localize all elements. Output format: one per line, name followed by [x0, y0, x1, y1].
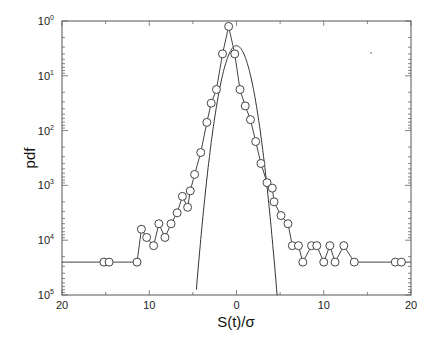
data-point	[161, 233, 169, 241]
plot-frame	[62, 21, 411, 295]
x-tick-labels: 201001020	[56, 299, 417, 311]
data-point	[186, 187, 194, 195]
data-point	[294, 242, 302, 250]
y-tick-label: 102	[38, 124, 54, 137]
data-point	[184, 203, 192, 211]
data-point	[299, 258, 307, 266]
y-tick-label: 103	[38, 178, 54, 191]
data-point	[350, 258, 358, 266]
y-tick-labels: 100101102103104105	[38, 14, 54, 301]
data-point	[143, 233, 151, 241]
x-axis-label: S(t)/σ	[217, 313, 255, 330]
y-tick-label: 100	[38, 14, 54, 27]
data-point	[246, 116, 254, 124]
x-tick-label: 10	[143, 299, 155, 311]
y-tick-label: 105	[38, 288, 54, 301]
data-point	[268, 184, 276, 192]
data-point	[155, 220, 163, 228]
data-point	[284, 220, 292, 228]
data-point	[270, 198, 278, 206]
data-point	[241, 102, 249, 110]
data-point	[173, 209, 181, 217]
data-point	[150, 242, 158, 250]
x-tick-label: 10	[318, 299, 330, 311]
data-point	[203, 118, 211, 126]
data-point	[331, 258, 339, 266]
gaussian-curve	[196, 46, 277, 295]
stray-dot	[370, 52, 372, 54]
y-axis-label: pdf	[21, 147, 38, 169]
data-point	[320, 258, 328, 266]
pdf-chart: 100101102103104105 201001020 S(t)/σ pdf	[0, 0, 433, 344]
data-point	[207, 99, 215, 107]
data-point	[133, 258, 141, 266]
data-series	[62, 22, 411, 266]
data-point	[219, 50, 227, 58]
data-point	[197, 149, 205, 157]
data-point	[212, 86, 220, 94]
axis-ticks	[62, 21, 411, 295]
data-point	[225, 22, 233, 30]
data-point	[340, 242, 348, 250]
data-point	[326, 242, 334, 250]
data-point	[178, 192, 186, 200]
data-point	[231, 50, 239, 58]
y-tick-label: 104	[38, 233, 54, 246]
data-point	[313, 242, 321, 250]
data-point	[191, 170, 199, 178]
data-point	[236, 86, 244, 94]
data-point	[137, 225, 145, 233]
x-tick-label: 0	[233, 299, 239, 311]
data-point	[105, 258, 113, 266]
x-tick-label: 20	[405, 299, 417, 311]
data-point	[257, 159, 265, 167]
data-point	[397, 258, 405, 266]
data-point	[252, 138, 260, 146]
data-point	[167, 220, 175, 228]
data-point	[277, 212, 285, 220]
y-tick-label: 101	[38, 69, 54, 82]
x-tick-label: 20	[56, 299, 68, 311]
